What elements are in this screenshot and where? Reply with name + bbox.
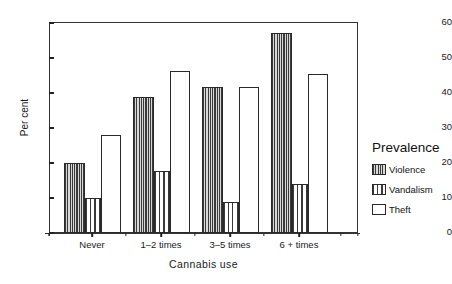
x-tick-label-3-5: 3–5 times — [209, 239, 250, 250]
bar-chart-figure: 60 50 40 30 20 10 0 Per cent — [0, 0, 452, 284]
legend-title: Prevalence — [372, 140, 452, 155]
x-tick-label-never: Never — [79, 239, 104, 250]
y-tick-mark — [49, 92, 54, 94]
x-tick-mark-boundary — [357, 233, 358, 236]
bar-never-theft — [101, 135, 121, 234]
y-tick-mark — [49, 232, 54, 234]
x-tick-mark-never — [91, 233, 93, 237]
bar-never-vandalism — [85, 198, 101, 233]
y-tick-mark — [49, 22, 54, 24]
bar-1-2-vandalism — [154, 171, 170, 233]
legend-item-vandalism: Vandalism — [372, 184, 452, 195]
x-tick-label-1-2: 1–2 times — [140, 239, 181, 250]
legend-item-violence: Violence — [372, 164, 452, 175]
x-tick-mark-boundary — [125, 233, 126, 236]
y-tick-mark — [49, 127, 54, 129]
y-tick-label: 50 — [422, 52, 452, 62]
bar-6plus-vandalism — [292, 184, 308, 233]
legend-swatch-theft-icon — [372, 204, 386, 215]
y-tick-label: 0 — [422, 227, 452, 237]
bar-never-violence — [64, 163, 85, 233]
bar-1-2-theft — [170, 71, 190, 233]
legend-item-theft: Theft — [372, 204, 452, 215]
y-tick-label: 30 — [422, 122, 452, 132]
x-tick-mark-1-2 — [160, 233, 162, 237]
y-tick-mark — [49, 57, 54, 59]
x-tick-mark-boundary — [263, 233, 264, 236]
x-tick-label-6plus: 6 + times — [280, 239, 319, 250]
bar-1-2-violence — [133, 97, 154, 234]
x-tick-mark-3-5 — [229, 233, 231, 237]
legend-swatch-violence-icon — [372, 164, 386, 175]
legend: Prevalence Violence Vandalism Theft — [372, 140, 452, 224]
y-tick-label: 60 — [422, 17, 452, 27]
legend-label-violence: Violence — [389, 164, 425, 175]
x-tick-mark-boundary — [340, 233, 341, 236]
y-axis-title: Per cent — [19, 88, 30, 148]
x-tick-mark-6plus — [298, 233, 300, 237]
bar-6plus-violence — [271, 33, 292, 234]
x-tick-mark-boundary — [48, 233, 49, 236]
bar-6plus-theft — [308, 74, 328, 233]
y-tick-mark — [49, 197, 54, 199]
x-axis-title: Cannabis use — [49, 258, 358, 270]
y-tick-mark — [49, 162, 54, 164]
legend-label-theft: Theft — [389, 204, 411, 215]
legend-label-vandalism: Vandalism — [389, 184, 433, 195]
x-tick-mark-boundary — [194, 233, 195, 236]
y-tick-label: 40 — [422, 87, 452, 97]
bar-3-5-vandalism — [223, 202, 239, 233]
bar-3-5-theft — [239, 87, 259, 233]
bar-3-5-violence — [202, 87, 223, 233]
legend-swatch-vandalism-icon — [372, 184, 386, 195]
